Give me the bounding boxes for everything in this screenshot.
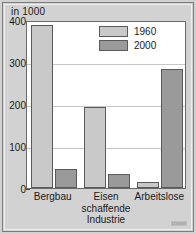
x-axis-category-line: schaffende xyxy=(79,203,132,215)
legend-item: 1960 xyxy=(99,26,156,37)
y-axis-tick-mark xyxy=(26,189,30,190)
x-axis-category-label: Arbeitslose xyxy=(133,191,186,203)
bar xyxy=(161,69,183,188)
legend-label: 2000 xyxy=(134,40,156,51)
legend-swatch xyxy=(99,40,128,51)
legend-swatch xyxy=(99,26,128,37)
y-axis-tick-label: 200 xyxy=(2,100,26,111)
legend-item: 2000 xyxy=(99,40,156,51)
y-axis-tick-label: 400 xyxy=(2,16,26,27)
x-axis-category-labels: BergbauEisenschaffendeIndustrieArbeitslo… xyxy=(26,191,186,231)
y-axis-tick-labels: 0100200300400 xyxy=(0,21,26,189)
legend: 19602000 xyxy=(99,26,156,51)
credit-mark: IZ/BBE xyxy=(171,221,187,226)
bar xyxy=(84,107,106,188)
y-axis-tick-label: 100 xyxy=(2,142,26,153)
y-axis-tick-label: 0 xyxy=(2,184,26,195)
legend-label: 1960 xyxy=(134,26,156,37)
x-axis-category-line: Arbeitslose xyxy=(133,191,186,203)
y-axis-tick-label: 300 xyxy=(2,58,26,69)
bar xyxy=(137,182,159,188)
x-axis-category-line: Industrie xyxy=(79,214,132,226)
bar xyxy=(31,25,53,188)
x-axis-category-line: Eisen xyxy=(79,191,132,203)
x-axis-category-line: Bergbau xyxy=(26,191,79,203)
x-axis-category-label: Bergbau xyxy=(26,191,79,203)
x-axis-category-label: EisenschaffendeIndustrie xyxy=(79,191,132,226)
bar xyxy=(108,174,130,188)
chart-figure: in 1000 0100200300400 BergbauEisenschaff… xyxy=(0,0,196,234)
bar xyxy=(55,169,77,188)
